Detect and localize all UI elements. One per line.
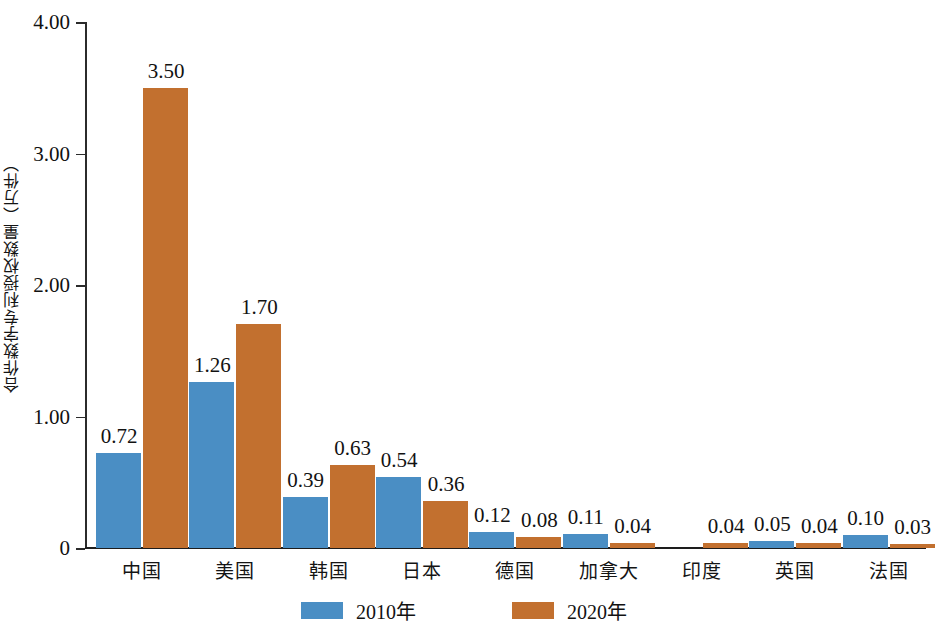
y-axis-tick	[76, 22, 85, 24]
y-axis-tick	[76, 285, 85, 287]
x-axis-label-8: 法国	[819, 556, 939, 583]
legend-swatch-2010	[301, 602, 343, 619]
legend-label-2010: 2010年	[356, 596, 416, 623]
bar-2010	[96, 453, 141, 548]
bar-group: 0.050.04	[749, 22, 841, 548]
legend-item-2020: 2020年	[512, 596, 627, 623]
bar-2020	[143, 88, 188, 548]
y-axis-tick-label: 2.00	[0, 273, 70, 298]
bar-2010	[469, 532, 514, 548]
y-axis-tick-label: 4.00	[0, 10, 70, 35]
bar-2020	[703, 543, 748, 548]
y-axis-tick-label: 0	[0, 536, 70, 561]
bar-value-label: 0.03	[873, 515, 939, 540]
bar-2020	[516, 537, 561, 548]
bar-2010	[189, 382, 234, 548]
bar-group: 0.100.03	[843, 22, 935, 548]
legend-item-2010: 2010年	[301, 596, 416, 623]
bar-group: 0.120.08	[469, 22, 561, 548]
legend-label-2020: 2020年	[567, 596, 627, 623]
bar-group: 0.723.50	[96, 22, 188, 548]
bar-2020	[610, 543, 655, 548]
chart-legend: 2010年 2020年	[0, 596, 928, 623]
legend-swatch-2020	[512, 602, 554, 619]
y-axis-tick-label: 3.00	[0, 141, 70, 166]
y-axis-tick	[76, 154, 85, 156]
y-axis-tick	[76, 548, 85, 550]
bar-2020	[236, 324, 281, 548]
bar-2020	[890, 544, 935, 548]
bar-2010	[749, 541, 794, 548]
plot-area: 0.723.501.261.700.390.630.540.360.120.08…	[86, 22, 926, 548]
bar-group: 0.540.36	[376, 22, 468, 548]
bar-group: 0.110.04	[563, 22, 655, 548]
y-axis-tick-label: 1.00	[0, 404, 70, 429]
bar-value-label: 0.54	[359, 448, 439, 473]
y-axis-tick	[76, 417, 85, 419]
bar-2020	[330, 465, 375, 548]
bar-2020	[796, 543, 841, 548]
bar-2010	[283, 497, 328, 548]
bar-group: 0.04	[656, 22, 748, 548]
